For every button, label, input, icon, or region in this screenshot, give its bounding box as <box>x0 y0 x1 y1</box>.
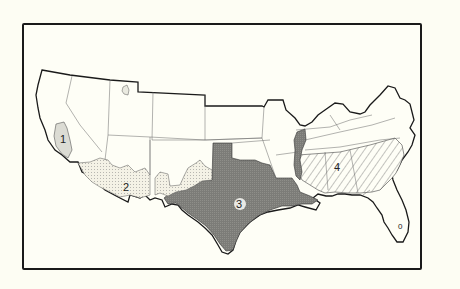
region-1-label: 1 <box>60 133 66 145</box>
florida-label: 0 <box>398 222 403 231</box>
region-3-label: 3 <box>236 198 242 210</box>
us-south-map: 1 2 3 4 0 <box>0 0 460 289</box>
region-4-label: 4 <box>334 161 340 173</box>
region-2-label: 2 <box>123 181 129 193</box>
